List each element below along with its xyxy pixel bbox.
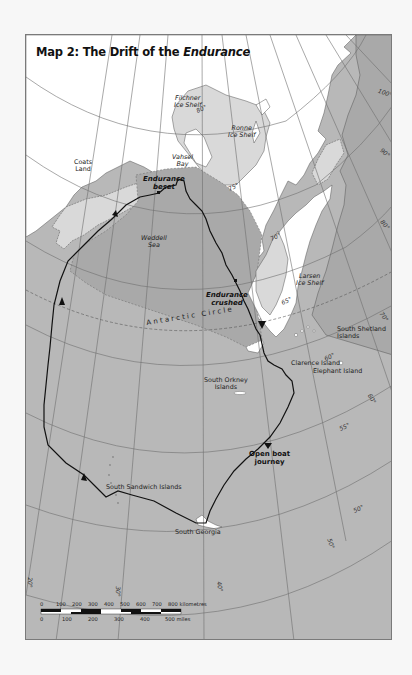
scale-mi-300: 300 bbox=[114, 616, 124, 622]
lon-label-30: 30° bbox=[115, 586, 122, 597]
label-vahsel-bay: VahselBay bbox=[172, 154, 193, 169]
label-south-sandwich-islands: South Sandwich Islands bbox=[106, 484, 182, 491]
map-title-ship: Endurance bbox=[183, 45, 250, 59]
scale-mi-0: 0 bbox=[40, 616, 43, 622]
label-south-orkney-islands: South OrkneyIslands bbox=[204, 377, 248, 392]
scale-km-400: 400 bbox=[104, 601, 114, 607]
label-south-georgia: South Georgia bbox=[175, 529, 221, 536]
map-frame: Map 2: The Drift of the Endurance CoatsL… bbox=[25, 34, 392, 640]
label-coats-land: CoatsLand bbox=[74, 159, 92, 174]
scale-mi-200: 200 bbox=[88, 616, 98, 622]
crushed-marker bbox=[234, 279, 237, 282]
south-orkney-islands bbox=[234, 391, 246, 394]
scale-km-100: 100 bbox=[56, 601, 66, 607]
scale-km-700: 700 bbox=[152, 601, 162, 607]
beset-marker bbox=[157, 191, 160, 194]
label-endurance-beset: Endurancebeset bbox=[143, 175, 185, 191]
scale-km-600: 600 bbox=[136, 601, 146, 607]
scale-km-300: 300 bbox=[88, 601, 98, 607]
scale-bar bbox=[41, 609, 181, 614]
scale-mi-400: 400 bbox=[140, 616, 150, 622]
label-south-shetland-islands: South ShetlandIslands bbox=[337, 326, 386, 341]
label-open-boat-journey: Open boatjourney bbox=[249, 450, 290, 466]
scale-km-0: 0 bbox=[40, 601, 43, 607]
label-elephant-island: Elephant Island bbox=[313, 368, 362, 375]
scale-km-500: 500 bbox=[120, 601, 130, 607]
label-larsen-ice-shelf: LarsenIce Shelf bbox=[296, 273, 323, 288]
scale-km-800: 800 kilometres bbox=[168, 601, 207, 607]
label-ronne-ice-shelf: RonneIce Shelf bbox=[228, 125, 255, 140]
scale-mi-500: 500 miles bbox=[165, 616, 190, 622]
map-title: Map 2: The Drift of the Endurance bbox=[36, 45, 250, 59]
label-endurance-crushed: Endurancecrushed bbox=[206, 291, 248, 307]
label-weddell-sea: WeddellSea bbox=[141, 235, 167, 250]
scale-mi-100: 100 bbox=[62, 616, 72, 622]
map-title-prefix: Map 2: The Drift of the bbox=[36, 45, 183, 59]
scale-km-200: 200 bbox=[72, 601, 82, 607]
lon-label-20: 20° bbox=[27, 577, 34, 588]
